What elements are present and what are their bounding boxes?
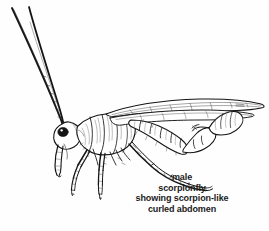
scorpionfly-figure: male scorpionfly showing scorpion-like c… — [0, 0, 269, 231]
compound-eye-icon — [58, 127, 68, 136]
figure-caption: male scorpionfly showing scorpion-like c… — [103, 172, 261, 214]
caption-line-4: curled abdomen — [103, 204, 261, 215]
caption-line-2: scorpionfly — [103, 183, 261, 194]
caption-line-1: male — [103, 172, 261, 183]
caption-line-3: showing scorpion-like — [103, 193, 261, 204]
